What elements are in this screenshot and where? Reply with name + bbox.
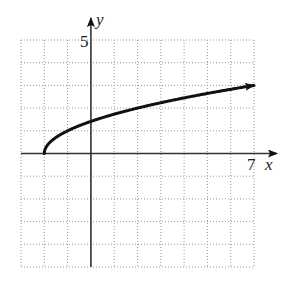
y-tick-label-5: 5 [80,32,89,51]
function-graph: y 5 7 x [0,0,293,284]
axes [21,18,277,267]
curve [44,85,254,153]
sqrt-curve [44,85,254,153]
y-axis-label: y [94,10,104,29]
x-axis-label: x [264,155,273,174]
x-tick-label-7: 7 [247,155,256,174]
